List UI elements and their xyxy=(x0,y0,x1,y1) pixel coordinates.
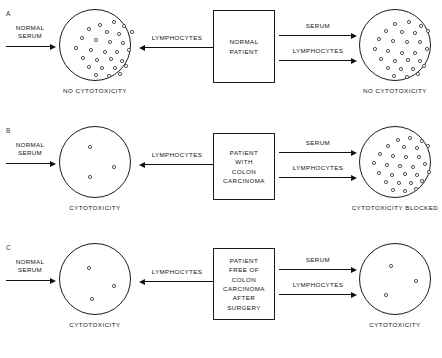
cell-marker-icon xyxy=(87,65,91,69)
cell-marker-icon xyxy=(393,59,397,63)
cell-marker-icon xyxy=(89,48,93,52)
center-box-line: CARCINOMA xyxy=(223,176,265,185)
arrow-right-icon-serum-out-a xyxy=(279,32,357,39)
cell-marker-icon xyxy=(420,179,424,183)
cytotoxicity-diagram: A NORMAL SERUM NO CYTOTOXICITY LYMPHOCYT… xyxy=(0,0,442,358)
center-box-line: PATIENT xyxy=(230,148,258,157)
cell-marker-icon xyxy=(418,59,422,63)
cell-marker-icon xyxy=(122,24,126,28)
cell-marker-icon xyxy=(118,72,122,76)
center-box-line: NORMAL xyxy=(229,37,258,46)
cell-marker-icon xyxy=(373,47,377,51)
cell-marker-icon xyxy=(411,165,415,169)
center-box-line: CARCINOMA xyxy=(223,284,265,293)
cell-marker-icon xyxy=(419,24,423,28)
cell-marker-icon xyxy=(103,50,107,54)
cell-marker-icon xyxy=(379,57,383,61)
cell-marker-icon xyxy=(115,50,119,54)
cell-marker-icon xyxy=(414,187,418,191)
cell-marker-icon xyxy=(130,30,134,34)
right-arrow-label-serum-a: SERUM xyxy=(277,22,359,29)
cell-marker-icon xyxy=(108,40,112,44)
right-arrow-label-lymphocytes-b: LYMPHOCYTES xyxy=(277,164,359,171)
cell-marker-icon xyxy=(100,66,104,70)
cell-marker-icon xyxy=(417,155,421,159)
cell-marker-icon xyxy=(94,73,98,77)
dish-caption-c-left: CYTOTOXICITY xyxy=(69,321,121,328)
cell-marker-icon xyxy=(386,66,390,70)
cell-marker-icon xyxy=(418,40,422,44)
center-box-c: PATIENTFREE OFCOLONCARCINOMAAFTERSURGERY xyxy=(213,248,275,320)
cell-marker-icon xyxy=(391,154,395,158)
cell-marker-icon xyxy=(105,30,109,34)
cell-marker-icon xyxy=(390,173,394,177)
arrow-left-icon-lymphocytes-a xyxy=(139,44,213,51)
cell-marker-icon xyxy=(378,152,382,156)
cell-marker-icon xyxy=(94,38,98,42)
cell-marker-icon xyxy=(372,161,376,165)
cell-marker-icon xyxy=(386,49,390,53)
dish-caption-a-left: NO CYTOTOXICITY xyxy=(63,87,127,94)
cell-marker-icon xyxy=(408,136,412,140)
arrow-left-icon-lymphocytes-c xyxy=(139,278,213,285)
center-box-b: PATIENTWITHCOLONCARCINOMA xyxy=(213,133,275,200)
cell-marker-icon xyxy=(384,180,388,184)
cell-marker-icon xyxy=(398,164,402,168)
cell-marker-icon xyxy=(416,72,420,76)
cell-marker-icon xyxy=(393,22,397,26)
cell-marker-icon xyxy=(107,74,111,78)
center-box-line: COLON xyxy=(232,167,256,176)
cell-marker-icon xyxy=(414,279,418,283)
cell-marker-icon xyxy=(427,170,431,174)
arrow-left-icon-lymphocytes-b xyxy=(139,161,213,168)
panel-b: B NORMAL SERUM CYTOTOXICITY LYMPHOCYTES … xyxy=(0,119,442,236)
arrow-right-icon-lymphocytes-out-b xyxy=(279,174,357,181)
cell-marker-icon xyxy=(109,57,113,61)
petri-dish-icon-b-left xyxy=(59,126,131,198)
panel-letter-c: C xyxy=(6,244,11,251)
petri-dish-icon-b-right xyxy=(359,126,431,198)
cell-marker-icon xyxy=(403,172,407,176)
cell-marker-icon xyxy=(413,51,417,55)
cell-marker-icon xyxy=(425,47,429,51)
left-stimulus-label-a: NORMAL SERUM xyxy=(4,24,56,40)
cell-marker-icon xyxy=(120,59,124,63)
cell-marker-icon xyxy=(127,48,131,52)
arrow-right-icon-serum-c xyxy=(6,277,56,284)
cell-marker-icon xyxy=(391,39,395,43)
cell-marker-icon xyxy=(117,32,121,36)
arrow-right-icon-serum-a xyxy=(6,43,56,50)
cell-marker-icon xyxy=(399,67,403,71)
cell-marker-icon xyxy=(406,58,410,62)
center-box-line: PATIENT xyxy=(230,256,258,265)
cell-marker-icon xyxy=(80,36,84,40)
middle-arrow-label-b: LYMPHOCYTES xyxy=(141,151,213,158)
center-box-a: NORMALPATIENT xyxy=(213,10,275,83)
cell-marker-icon xyxy=(415,146,419,150)
cell-marker-icon xyxy=(407,20,411,24)
cell-marker-icon xyxy=(411,67,415,71)
arrow-right-icon-serum-b xyxy=(6,160,56,167)
cell-marker-icon xyxy=(88,175,92,179)
cell-marker-icon xyxy=(384,293,388,297)
left-stimulus-label-b: NORMAL SERUM xyxy=(4,141,56,157)
cell-marker-icon xyxy=(420,139,424,143)
right-arrow-label-lymphocytes-c: LYMPHOCYTES xyxy=(277,281,359,288)
cell-marker-icon xyxy=(404,155,408,159)
cell-marker-icon xyxy=(87,27,91,31)
dish-caption-a-right: NO CYTOTOXICITY xyxy=(363,87,427,94)
dish-caption-b-left: CYTOTOXICITY xyxy=(69,204,121,211)
cell-marker-icon xyxy=(405,40,409,44)
cell-marker-icon xyxy=(409,181,413,185)
cell-marker-icon xyxy=(113,66,117,70)
panel-a: A NORMAL SERUM NO CYTOTOXICITY LYMPHOCYT… xyxy=(0,2,442,119)
center-box-line: PATIENT xyxy=(230,47,258,56)
cell-marker-icon xyxy=(403,189,407,193)
center-box-line: SURGERY xyxy=(227,303,261,312)
left-stimulus-label-c: NORMAL SERUM xyxy=(4,258,56,274)
cell-marker-icon xyxy=(385,163,389,167)
center-box-line: AFTER xyxy=(233,293,256,302)
center-box-line: COLON xyxy=(232,275,256,284)
dish-caption-b-right: CYTOTOXICITY BLOCKED xyxy=(352,204,439,211)
cell-marker-icon xyxy=(98,23,102,27)
